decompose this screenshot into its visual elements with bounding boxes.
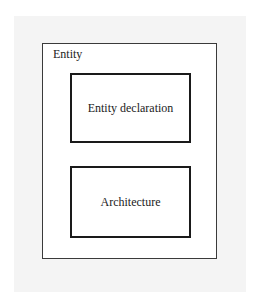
architecture-label: Architecture xyxy=(101,195,161,210)
entity-declaration-box: Entity declaration xyxy=(70,73,191,143)
entity-declaration-label: Entity declaration xyxy=(88,101,174,116)
architecture-box: Architecture xyxy=(70,166,191,238)
entity-label: Entity xyxy=(53,47,82,61)
diagram-canvas: Entity Entity declaration Architecture xyxy=(0,0,258,302)
